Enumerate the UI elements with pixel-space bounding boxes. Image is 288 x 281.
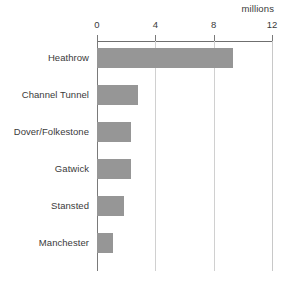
category-label: Gatwick (0, 163, 89, 174)
category-label: Dover/Folkestone (0, 126, 89, 137)
gridline-12 (272, 41, 273, 271)
bar (97, 233, 113, 253)
plot-area (97, 41, 272, 271)
units-label: millions (200, 3, 274, 14)
x-tick-mark-0 (97, 35, 98, 41)
x-tick-mark-12 (272, 35, 273, 41)
category-label: Manchester (0, 237, 89, 248)
bar (97, 85, 138, 105)
category-label: Stansted (0, 200, 89, 211)
gridline-8 (214, 41, 215, 271)
x-tick-label-4: 4 (143, 19, 167, 30)
gridline-4 (155, 41, 156, 271)
bar (97, 159, 131, 179)
x-tick-label-0: 0 (85, 19, 109, 30)
bar (97, 196, 124, 216)
bar (97, 122, 131, 142)
category-label: Channel Tunnel (0, 89, 89, 100)
bar-chart: millions 04812 HeathrowChannel TunnelDov… (0, 0, 288, 281)
category-label: Heathrow (0, 52, 89, 63)
bar (97, 48, 233, 68)
x-tick-mark-4 (155, 35, 156, 41)
x-tick-mark-8 (214, 35, 215, 41)
x-tick-label-12: 12 (260, 19, 284, 30)
x-tick-label-8: 8 (202, 19, 226, 30)
